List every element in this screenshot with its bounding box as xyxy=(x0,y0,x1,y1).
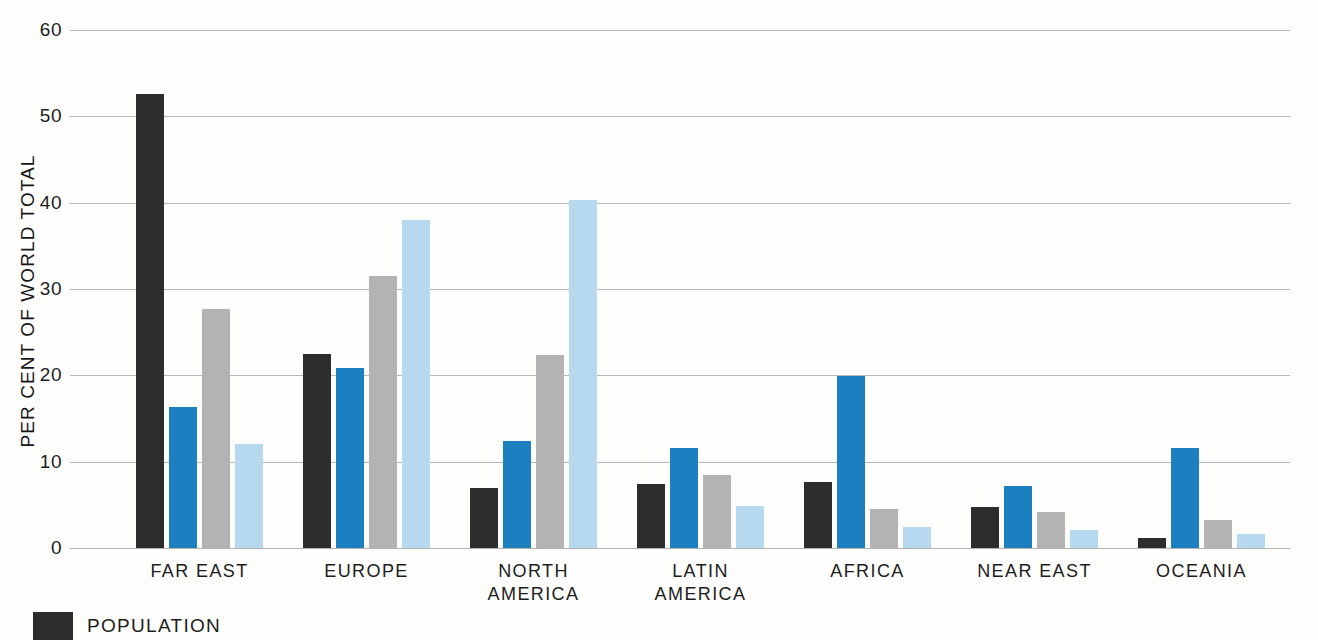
bar-group xyxy=(971,24,1103,554)
bar xyxy=(136,94,164,548)
bar xyxy=(569,200,597,548)
bar-group xyxy=(470,24,602,554)
y-axis-tick-labels: 0102030405060 xyxy=(0,24,62,554)
plot-area xyxy=(70,24,1292,554)
bar xyxy=(736,506,764,548)
bar xyxy=(1004,486,1032,548)
y-tick-label-20: 20 xyxy=(20,364,62,386)
bar xyxy=(971,507,999,548)
bar-group xyxy=(804,24,936,554)
bar xyxy=(470,488,498,548)
bar xyxy=(402,220,430,548)
chart-legend: POPULATION xyxy=(33,612,221,640)
bar xyxy=(369,276,397,548)
y-tick-label-60: 60 xyxy=(20,19,62,41)
bar xyxy=(637,484,665,548)
bar xyxy=(804,482,832,548)
bar xyxy=(1138,538,1166,548)
bar xyxy=(703,475,731,548)
y-tick-label-50: 50 xyxy=(20,105,62,127)
bar xyxy=(1037,512,1065,548)
legend-swatch-icon xyxy=(33,612,73,640)
y-tick-label-30: 30 xyxy=(20,278,62,300)
bar xyxy=(1204,520,1232,548)
bar-group xyxy=(303,24,435,554)
bar xyxy=(536,355,564,548)
bar-group xyxy=(1138,24,1270,554)
bar xyxy=(202,309,230,548)
y-tick-label-10: 10 xyxy=(20,451,62,473)
bar xyxy=(1171,448,1199,548)
bar xyxy=(870,509,898,548)
bar-group xyxy=(136,24,268,554)
bar xyxy=(169,407,197,548)
bar xyxy=(670,448,698,548)
y-tick-label-0: 0 xyxy=(20,537,62,559)
x-axis-label: OCEANIA xyxy=(1102,560,1302,583)
bar-group xyxy=(637,24,769,554)
bar xyxy=(503,441,531,548)
bar xyxy=(235,444,263,548)
bar-chart: PER CENT OF WORLD TOTAL 0102030405060 FA… xyxy=(0,0,1318,640)
legend-item: POPULATION xyxy=(33,612,221,640)
bar xyxy=(1070,530,1098,548)
bar xyxy=(903,527,931,548)
bar xyxy=(1237,534,1265,548)
bar xyxy=(336,368,364,548)
bar xyxy=(303,354,331,548)
y-tick-label-40: 40 xyxy=(20,192,62,214)
bar xyxy=(837,376,865,548)
legend-label: POPULATION xyxy=(87,615,221,637)
